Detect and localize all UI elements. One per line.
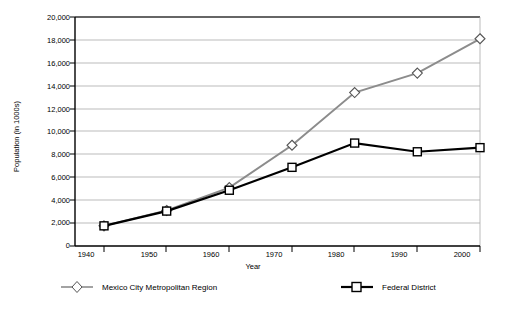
x-tick-label: 1940 bbox=[66, 250, 106, 259]
x-axis-title: Year bbox=[0, 262, 506, 271]
y-tick-marks bbox=[70, 17, 75, 246]
x-tick-label: 1980 bbox=[316, 250, 356, 259]
data-point-marker bbox=[288, 163, 296, 171]
data-point-marker bbox=[100, 222, 108, 230]
data-point-marker bbox=[163, 207, 171, 215]
square-marker-icon bbox=[340, 280, 374, 294]
chart-legend: Mexico City Metropolitan Region Federal … bbox=[0, 276, 506, 298]
x-tick-label: 1970 bbox=[254, 250, 294, 259]
data-point-marker bbox=[476, 144, 484, 152]
data-point-marker bbox=[412, 68, 422, 78]
legend-label-federal: Federal District bbox=[382, 283, 436, 292]
data-point-marker bbox=[475, 34, 485, 44]
population-line-chart-figure: 20,000 18,000 16,000 14,000 12,000 10,00… bbox=[0, 0, 506, 313]
chart-svg bbox=[0, 0, 506, 270]
chart-plot-area: 20,000 18,000 16,000 14,000 12,000 10,00… bbox=[0, 0, 506, 270]
legend-item-federal: Federal District bbox=[340, 276, 436, 298]
legend-item-metro: Mexico City Metropolitan Region bbox=[60, 276, 217, 298]
series-line bbox=[104, 143, 480, 226]
data-point-marker bbox=[351, 139, 359, 147]
x-tick-label: 1990 bbox=[379, 250, 419, 259]
x-tick-label: 1950 bbox=[129, 250, 169, 259]
gridlines bbox=[75, 40, 480, 223]
data-point-marker bbox=[225, 186, 233, 194]
x-tick-label: 2000 bbox=[442, 250, 482, 259]
series-federal bbox=[100, 139, 484, 230]
series-line bbox=[104, 39, 480, 226]
data-point-marker bbox=[413, 148, 421, 156]
x-tick-label: 1960 bbox=[191, 250, 231, 259]
diamond-marker-icon bbox=[60, 280, 94, 294]
legend-label-metro: Mexico City Metropolitan Region bbox=[102, 283, 217, 292]
